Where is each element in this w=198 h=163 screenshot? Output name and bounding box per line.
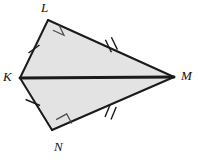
vertex-label-L: L	[41, 1, 48, 14]
kite-diagram	[0, 0, 198, 163]
kite-body	[20, 20, 174, 130]
diagonal-KM	[20, 77, 174, 78]
vertex-label-K: K	[3, 70, 12, 83]
geometry-figure: K L M N	[0, 0, 198, 163]
vertex-label-M: M	[181, 69, 192, 82]
vertex-label-N: N	[54, 140, 63, 153]
